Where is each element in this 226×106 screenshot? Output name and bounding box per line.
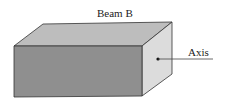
axis-label: Axis: [188, 47, 209, 58]
beam-title-label: Beam B: [97, 8, 133, 19]
beam-front-face: [14, 46, 142, 97]
